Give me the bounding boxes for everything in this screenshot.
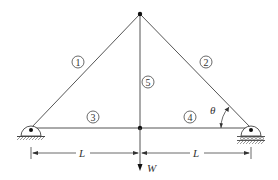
member-label-5: 5 [142,76,154,88]
angle-theta-indicator: θ [210,104,229,128]
member-label-4: 4 [184,111,196,123]
member-label-1: 1 [72,56,84,68]
svg-text:4: 4 [188,112,193,123]
svg-text:1: 1 [76,57,81,68]
theta-label: θ [210,104,216,116]
member-label-3: 3 [87,111,99,123]
load-label: W [147,162,157,174]
dimension-label-right: L [192,147,199,159]
load-arrow-W: W [138,128,158,174]
joint-top [138,12,142,16]
member-1 [31,14,140,128]
member-label-2: 2 [200,56,212,68]
truss-diagram: 1 2 3 4 5 θ L L [0,0,278,180]
member-2 [140,14,251,128]
svg-text:3: 3 [91,112,96,123]
right-roller-support [237,126,265,144]
dimension-right-L: L [141,147,251,159]
svg-text:2: 2 [204,57,209,68]
svg-text:5: 5 [146,77,151,88]
dimension-label-left: L [78,147,85,159]
dimension-left-L: L [31,147,139,159]
